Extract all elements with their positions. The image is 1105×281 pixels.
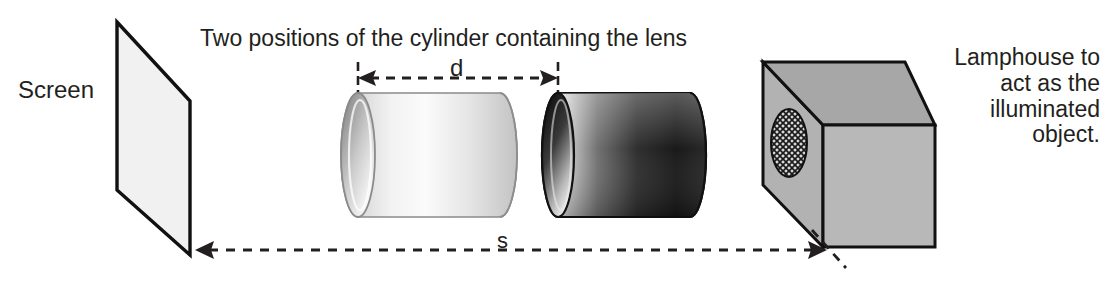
lamphouse-label: Lamphouse to act as the illuminated obje… (920, 45, 1100, 148)
lamphouse-object (763, 62, 935, 247)
lamphouse-side-face (823, 125, 935, 247)
screen-object (117, 22, 190, 255)
cylinder-light (341, 93, 517, 217)
screen-label: Screen (18, 77, 94, 104)
dimension-s (195, 230, 846, 268)
illuminated-object-aperture-icon (771, 109, 807, 177)
cylinder-dark-face (542, 93, 574, 217)
screen-panel (117, 22, 190, 255)
dimension-d-label: d (450, 54, 463, 82)
optics-diagram: Screen Two positions of the cylinder con… (0, 0, 1105, 281)
diagram-title-label: Two positions of the cylinder containing… (200, 26, 687, 52)
dimension-s-label: s (497, 228, 508, 254)
dim-d-arrowhead-right (540, 70, 558, 86)
cylinder-dark (542, 93, 706, 217)
